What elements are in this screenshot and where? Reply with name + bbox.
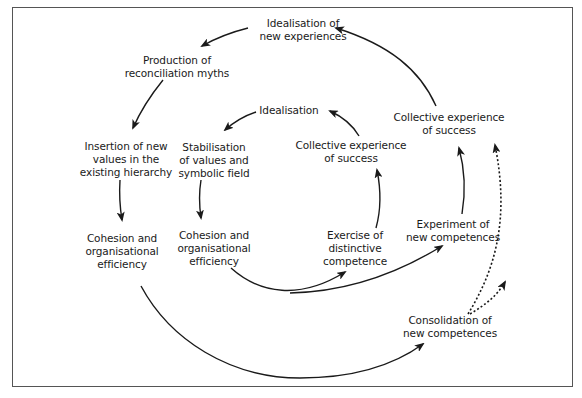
node-cohesion-inner: Cohesion and organisational efficiency	[177, 229, 250, 268]
node-idealisation-new-experiences: Idealisation of new experiences	[259, 17, 346, 43]
node-cohesion-outer: Cohesion and organisational efficiency	[85, 232, 158, 271]
node-stabilisation: Stabilisation of values and symbolic fie…	[178, 141, 249, 180]
arrow-insertion-to-cohesion-outer	[120, 180, 122, 220]
node-exercise-distinctive-competence: Exercise of distinctive competence	[323, 229, 387, 268]
node-experiment-competences: Experiment of new competences	[406, 218, 500, 244]
diagram-canvas: Idealisation of new experiences Producti…	[0, 0, 582, 398]
arrow-cohesion-outer-to-consolidation	[141, 286, 423, 378]
arrow-exercise-to-collective-inner	[376, 170, 380, 228]
node-production-reconciliation-myths: Production of reconciliation myths	[125, 54, 230, 80]
arrow-collective-outer-to-idealisation-new	[336, 28, 436, 106]
arrow-collective-inner-to-idealisation	[330, 111, 359, 136]
node-consolidation-competences: Consolidation of new competences	[403, 314, 497, 340]
arrow-experiment-to-collective-outer	[459, 148, 464, 214]
arrow-idealisation-to-production	[202, 28, 248, 46]
node-insertion-new-values: Insertion of new values in the existing …	[80, 140, 172, 179]
node-collective-outer: Collective experience of success	[394, 111, 505, 137]
arrow-cohesion-inner-to-exercise	[231, 268, 345, 290]
node-collective-inner: Collective experience of success	[296, 139, 407, 165]
arrow-stabilisation-to-cohesion-inner	[200, 180, 202, 218]
dotted-arrow-consolidation-outward	[470, 282, 505, 314]
arrow-idealisation-to-stabilisation	[225, 112, 256, 130]
node-idealisation: Idealisation	[259, 104, 318, 117]
arrow-production-to-insertion	[133, 80, 163, 128]
